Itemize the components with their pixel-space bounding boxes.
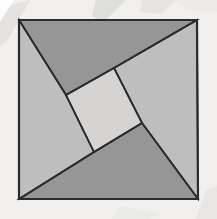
tangram-pieces	[19, 20, 198, 199]
figure-container	[0, 0, 217, 219]
pinwheel-square-figure	[0, 0, 217, 219]
